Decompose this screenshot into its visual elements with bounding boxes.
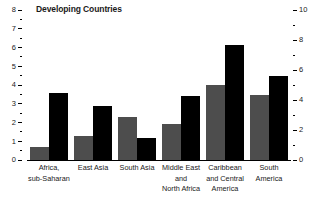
bar-group [115, 10, 159, 160]
left-axis-tick-label: 0 [12, 156, 16, 164]
right-axis-tick-mark [293, 115, 295, 116]
right-axis-tick-label: 2 [299, 126, 303, 134]
left-axis-tick-label: 4 [12, 81, 16, 89]
right-axis-tick-mark [293, 85, 295, 86]
left-axis-tick-mark [18, 160, 22, 161]
right-axis-tick-mark [293, 145, 295, 146]
left-axis-tick-label: 5 [12, 63, 16, 71]
bar-group [247, 10, 291, 160]
right-axis-tick-label: 0 [299, 156, 303, 164]
right-axis-tick-mark [293, 70, 297, 71]
left-axis-tick-mark [20, 94, 22, 95]
bar-black [49, 93, 68, 161]
right-axis-tick-mark [293, 130, 297, 131]
left-axis-tick-mark [18, 28, 22, 29]
category-axis-labels: Africa,sub-SaharanEast AsiaSouth AsiaMid… [27, 163, 291, 209]
bar-black [181, 96, 200, 161]
bar-black [137, 138, 156, 161]
bar-black [225, 45, 244, 161]
plot-area [27, 10, 291, 160]
left-axis-tick-mark [18, 103, 22, 104]
bar-gray [206, 85, 225, 160]
bar-group [27, 10, 71, 160]
right-axis-tick-mark [293, 10, 297, 11]
left-axis-tick-label: 1 [12, 138, 16, 146]
left-axis-tick-mark [18, 122, 22, 123]
chart-container: Developing Countries 012345678 0246810 A… [0, 0, 327, 209]
bar-group [159, 10, 203, 160]
bar-gray [74, 136, 93, 160]
bar-gray [250, 95, 269, 160]
left-axis-tick-mark [18, 141, 22, 142]
axis-baseline [27, 160, 291, 161]
right-axis-tick-mark [293, 100, 297, 101]
left-axis-tick-label: 3 [12, 100, 16, 108]
left-axis-tick-label: 7 [12, 25, 16, 33]
right-axis-tick-mark [293, 25, 295, 26]
right-axis-tick-label: 8 [299, 36, 303, 44]
left-axis-tick-label: 8 [12, 6, 16, 14]
left-axis-tick-label: 6 [12, 44, 16, 52]
bar-gray [162, 124, 181, 160]
left-value-axis: 012345678 [0, 10, 24, 160]
left-axis-tick-mark [20, 56, 22, 57]
left-axis-tick-mark [20, 150, 22, 151]
left-axis-tick-mark [18, 47, 22, 48]
left-axis-tick-mark [18, 10, 22, 11]
right-axis-tick-mark [293, 40, 297, 41]
bar-gray [118, 117, 137, 160]
bar-black [93, 106, 112, 160]
left-axis-tick-label: 2 [12, 119, 16, 127]
left-axis-tick-mark [18, 66, 22, 67]
bar-group [203, 10, 247, 160]
right-axis-tick-label: 6 [299, 66, 303, 74]
left-axis-tick-mark [20, 75, 22, 76]
left-axis-tick-mark [20, 131, 22, 132]
right-axis-tick-mark [293, 160, 297, 161]
category-label: SouthAmerica [243, 163, 295, 184]
right-value-axis: 0246810 [291, 10, 327, 160]
bar-group [71, 10, 115, 160]
left-axis-tick-mark [20, 38, 22, 39]
bar-gray [30, 147, 49, 160]
left-axis-tick-mark [18, 85, 22, 86]
right-axis-tick-label: 10 [299, 6, 307, 14]
left-axis-tick-mark [20, 19, 22, 20]
right-axis-tick-mark [293, 55, 295, 56]
bar-black [269, 76, 288, 160]
right-axis-tick-label: 4 [299, 96, 303, 104]
left-axis-tick-mark [20, 113, 22, 114]
